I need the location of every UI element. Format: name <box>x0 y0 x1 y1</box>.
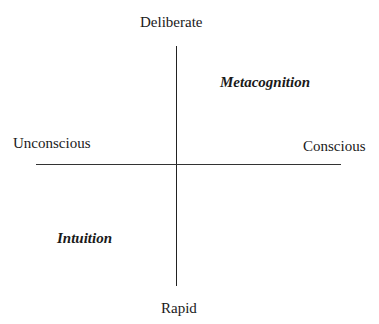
quadrant-label-metacognition: Metacognition <box>220 75 310 90</box>
axis-label-bottom: Rapid <box>161 301 197 316</box>
quadrant-label-intuition: Intuition <box>57 231 112 246</box>
axis-label-right: Conscious <box>303 139 366 154</box>
axis-label-top: Deliberate <box>140 15 202 30</box>
horizontal-axis-line <box>36 164 341 165</box>
vertical-axis-line <box>176 46 177 286</box>
axis-label-left: Unconscious <box>13 136 91 151</box>
